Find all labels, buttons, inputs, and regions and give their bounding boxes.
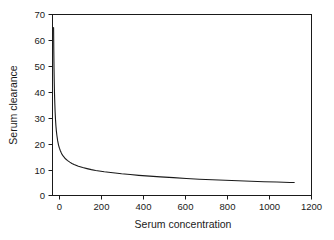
y-tick-label: 70 xyxy=(34,9,45,20)
x-tick-label: 0 xyxy=(57,201,62,212)
x-tick-label: 600 xyxy=(178,201,194,212)
y-tick-label: 20 xyxy=(34,139,45,150)
x-tick-label: 400 xyxy=(136,201,152,212)
x-tick-label: 1200 xyxy=(301,201,322,212)
y-tick-label: 50 xyxy=(34,61,45,72)
serum-clearance-chart: 70 60 50 40 30 20 10 0 0 200 400 600 800 xyxy=(0,0,334,240)
y-tick-label: 30 xyxy=(34,113,45,124)
y-tick-label: 0 xyxy=(40,190,45,201)
x-tick-label: 200 xyxy=(94,201,110,212)
x-axis-title: Serum concentration xyxy=(135,218,232,230)
chart-figure: 70 60 50 40 30 20 10 0 0 200 400 600 800 xyxy=(0,0,334,240)
y-axis-title: Serum clearance xyxy=(7,65,19,145)
x-tick-label: 800 xyxy=(220,201,236,212)
y-tick-label: 10 xyxy=(34,165,45,176)
chart-background xyxy=(0,0,334,240)
y-tick-label: 40 xyxy=(34,87,45,98)
x-tick-label: 1000 xyxy=(259,201,280,212)
y-tick-label: 60 xyxy=(34,35,45,46)
